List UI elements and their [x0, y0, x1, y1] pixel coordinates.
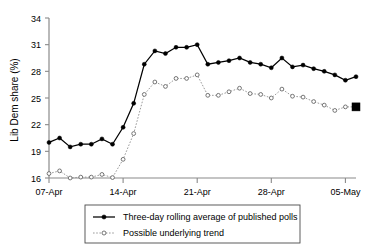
- data-point: [344, 105, 348, 109]
- data-point: [100, 137, 104, 141]
- y-axis-title: Lib Dem share (%): [9, 58, 20, 141]
- y-tick-label: 19: [31, 147, 41, 157]
- final-projection-marker: [352, 103, 360, 111]
- data-point: [291, 94, 295, 98]
- x-tick-label: 07-Apr: [35, 187, 62, 197]
- data-point: [333, 73, 337, 77]
- data-point: [58, 136, 62, 140]
- data-point: [111, 142, 115, 146]
- legend-label: Three-day rolling average of published p…: [123, 212, 298, 222]
- data-point: [174, 45, 178, 49]
- legend-label: Possible underlying trend: [123, 228, 224, 238]
- x-tick-label: 28-Apr: [258, 187, 285, 197]
- data-point: [111, 176, 115, 180]
- data-point: [58, 169, 62, 173]
- data-point: [89, 175, 93, 179]
- x-tick-label: 14-Apr: [110, 187, 137, 197]
- chart-container: Lib Dem share (%) 16192225283134 07-Apr1…: [0, 0, 367, 250]
- data-point: [354, 75, 358, 79]
- data-point: [227, 59, 231, 63]
- x-axis-ticks: 07-Apr14-Apr21-Apr28-Apr05-May: [35, 178, 360, 197]
- data-point: [132, 101, 136, 105]
- data-point: [121, 125, 125, 129]
- data-point: [238, 86, 242, 90]
- data-point: [259, 93, 263, 97]
- data-point: [301, 63, 305, 67]
- data-point: [164, 85, 168, 89]
- series-rolling-average: [47, 43, 358, 149]
- series-line: [49, 75, 356, 178]
- data-point: [100, 173, 104, 177]
- data-point: [195, 73, 199, 77]
- y-tick-label: 28: [31, 67, 41, 77]
- data-point: [47, 172, 51, 176]
- data-point: [79, 142, 83, 146]
- data-point: [248, 92, 252, 96]
- data-point: [290, 65, 294, 69]
- data-point: [216, 93, 220, 97]
- data-point: [68, 145, 72, 149]
- data-point: [269, 66, 273, 70]
- y-tick-label: 16: [31, 174, 41, 184]
- y-tick-label: 22: [31, 120, 41, 130]
- data-point: [206, 62, 210, 66]
- data-point: [79, 175, 83, 179]
- legend-marker-swatch: [102, 215, 106, 219]
- y-tick-label: 34: [31, 14, 41, 24]
- x-tick-label: 21-Apr: [184, 187, 211, 197]
- data-point: [185, 45, 189, 49]
- data-point: [195, 43, 199, 47]
- y-tick-label: 31: [31, 40, 41, 50]
- data-point: [269, 96, 273, 100]
- data-point: [121, 157, 125, 161]
- x-tick-label: 05-May: [330, 187, 361, 197]
- data-point: [312, 67, 316, 71]
- legend-marker-swatch: [102, 231, 106, 235]
- data-point: [280, 56, 284, 60]
- data-point: [163, 52, 167, 56]
- data-point: [174, 77, 178, 81]
- data-point: [238, 56, 242, 60]
- data-point: [259, 62, 263, 66]
- series-line: [49, 45, 356, 147]
- data-point: [89, 142, 93, 146]
- data-point: [216, 60, 220, 64]
- data-point: [301, 95, 305, 99]
- data-point: [185, 77, 189, 81]
- legend-entry[interactable]: Three-day rolling average of published p…: [93, 212, 298, 222]
- data-point: [68, 176, 72, 180]
- data-point: [227, 90, 231, 94]
- y-axis-label: Lib Dem share (%): [9, 58, 20, 141]
- data-point: [280, 87, 284, 91]
- series-underlying-trend: [47, 73, 358, 180]
- data-point: [206, 93, 210, 97]
- data-point: [153, 49, 157, 53]
- data-point: [47, 140, 51, 144]
- series-plot-area: [47, 43, 360, 180]
- data-point: [312, 100, 316, 104]
- data-point: [142, 93, 146, 97]
- data-point: [142, 62, 146, 66]
- data-point: [132, 132, 136, 136]
- data-point: [333, 109, 337, 113]
- data-point: [153, 80, 157, 84]
- data-point: [248, 60, 252, 64]
- data-point: [322, 103, 326, 107]
- data-point: [322, 69, 326, 73]
- chart-legend: Three-day rolling average of published p…: [85, 205, 300, 243]
- lib-dem-share-line-chart: Lib Dem share (%) 16192225283134 07-Apr1…: [0, 0, 367, 250]
- data-point: [343, 78, 347, 82]
- y-axis-ticks: 16192225283134: [31, 14, 49, 184]
- y-tick-label: 25: [31, 94, 41, 104]
